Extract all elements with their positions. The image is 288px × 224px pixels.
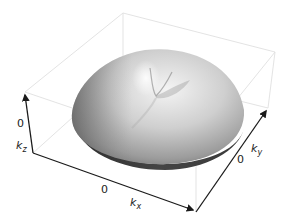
ky-axis-label: ky [251, 142, 262, 157]
surface-plot-3d: 0 kz 0 kx 0 ky [0, 0, 288, 224]
kz-axis-label: kz [16, 139, 27, 154]
kx-tick-label: 0 [101, 183, 108, 196]
ky-tick-label: 0 [237, 153, 244, 166]
surface-left-shading [72, 49, 244, 164]
kx-axis-label: kx [130, 196, 141, 211]
dimple-highlight [132, 60, 160, 96]
kz-tick-label: 0 [17, 117, 24, 130]
